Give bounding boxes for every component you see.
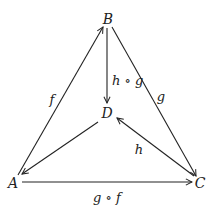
label-h-compose-g: h ∘ g bbox=[112, 73, 143, 88]
label-f: f bbox=[49, 92, 57, 107]
node-d: D bbox=[100, 105, 112, 121]
arrow-h bbox=[117, 118, 194, 176]
label-g-compose-f: g ∘ f bbox=[93, 190, 123, 205]
label-h: h bbox=[135, 142, 143, 157]
arrow-f bbox=[18, 27, 103, 175]
arrow-g bbox=[112, 27, 196, 176]
node-a: A bbox=[6, 175, 18, 191]
node-b: B bbox=[102, 11, 113, 27]
node-c: C bbox=[195, 175, 206, 191]
label-g: g bbox=[157, 89, 165, 104]
commutative-diagram: B D A C f g h ∘ g h g ∘ f bbox=[0, 0, 216, 207]
